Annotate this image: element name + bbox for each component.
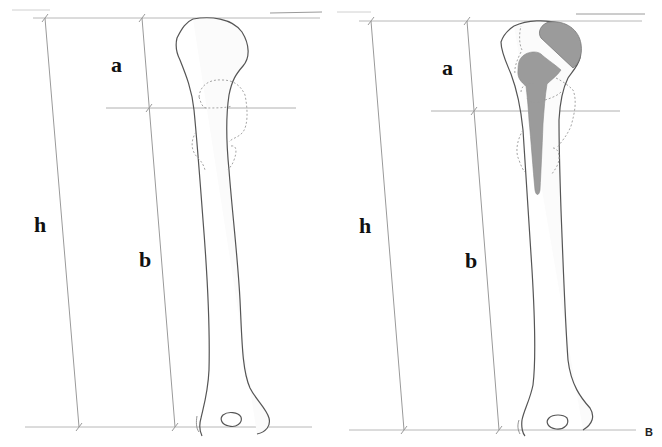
humerus-diagram-a bbox=[0, 0, 331, 447]
label-b: b bbox=[139, 249, 151, 271]
panel-a: a h b bbox=[0, 0, 331, 447]
humerus-diagram-b bbox=[331, 0, 662, 447]
panel-label-b: B bbox=[645, 426, 653, 438]
label-a: a bbox=[111, 54, 122, 76]
label-b: b bbox=[465, 250, 477, 272]
label-h: h bbox=[34, 214, 46, 236]
panel-b: a h b B bbox=[331, 0, 662, 447]
label-h: h bbox=[359, 215, 371, 237]
figure: a h b bbox=[0, 0, 662, 447]
label-a: a bbox=[442, 57, 453, 79]
